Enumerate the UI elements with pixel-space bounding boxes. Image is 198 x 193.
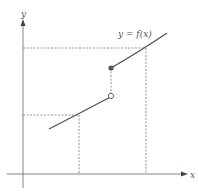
x-axis (7, 172, 188, 177)
function-label: y = f(x) (117, 29, 152, 39)
x-axis-label: x (190, 170, 195, 180)
y-axis-label: y (20, 9, 27, 19)
y-axis (21, 19, 26, 188)
lower-curve-segment (49, 98, 110, 130)
x-axis-arrow-icon (181, 172, 188, 177)
open-endpoint-icon (108, 93, 113, 98)
y-axis-arrow-icon (21, 19, 26, 26)
discontinuity-diagram: y x y = f(x) (0, 0, 198, 193)
filled-endpoint-icon (108, 65, 113, 70)
